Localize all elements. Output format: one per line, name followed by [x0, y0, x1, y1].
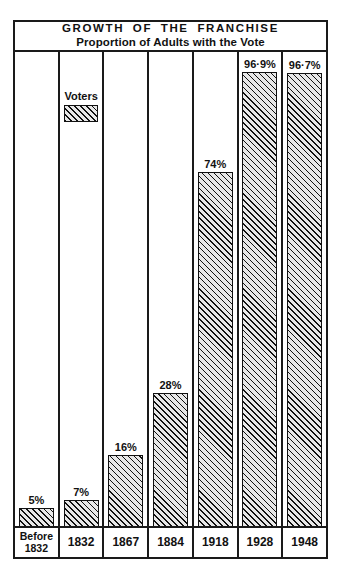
bar-label-2: 16%: [109, 441, 142, 453]
bar-1: 7%: [64, 500, 99, 528]
bar-column-6: 96·7%: [283, 52, 326, 528]
x-axis-label-0: Before 1832: [15, 528, 60, 557]
bar-label-0: 5%: [20, 494, 53, 506]
bar-4: 74%: [198, 172, 233, 528]
bar-column-2: 16%: [104, 52, 149, 528]
bar-column-4: 74%: [194, 52, 239, 528]
bar-6: 96·7%: [287, 73, 322, 528]
legend-label: Voters: [64, 90, 97, 105]
x-axis-label-1: 1832: [60, 528, 105, 557]
chart-title-band: GROWTH OF THE FRANCHISE Proportion of Ad…: [15, 22, 326, 52]
bar-column-5: 96·9%: [239, 52, 284, 528]
bar-label-6: 96·7%: [288, 59, 321, 71]
bar-label-5: 96·9%: [243, 58, 276, 70]
x-axis-band: Before 1832 1832 1867 1884 1918 1928 194…: [15, 526, 326, 557]
legend: Voters: [64, 90, 97, 122]
bar-label-1: 7%: [65, 486, 98, 498]
x-axis-label-5: 1928: [239, 528, 284, 557]
chart-title: GROWTH OF THE FRANCHISE: [62, 22, 279, 35]
bar-0: 5%: [19, 508, 54, 528]
chart-figure: GROWTH OF THE FRANCHISE Proportion of Ad…: [13, 20, 328, 559]
x-axis-label-6: 1948: [283, 528, 326, 557]
chart-subtitle: Proportion of Adults with the Vote: [76, 35, 265, 49]
x-axis-label-3: 1884: [149, 528, 194, 557]
bar-column-3: 28%: [149, 52, 194, 528]
bar-label-4: 74%: [199, 158, 232, 170]
bar-label-3: 28%: [154, 379, 187, 391]
plot-area: 5% Voters 7% 16% 28% 74%: [15, 52, 326, 528]
bar-column-0: 5%: [15, 52, 60, 528]
hatched-swatch: [64, 105, 97, 122]
bar-5: 96·9%: [242, 72, 277, 528]
bar-column-1: Voters 7%: [60, 52, 105, 528]
bar-3: 28%: [153, 393, 188, 528]
x-axis-label-2: 1867: [104, 528, 149, 557]
bar-2: 16%: [108, 455, 143, 528]
x-axis-label-4: 1918: [194, 528, 239, 557]
